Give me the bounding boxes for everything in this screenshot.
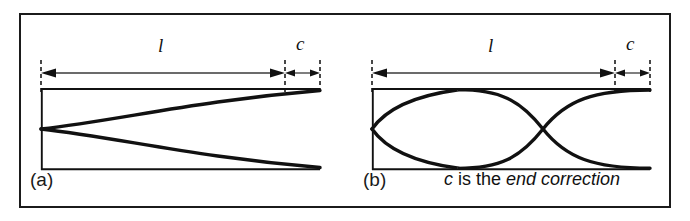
dimension-label-l-a: l bbox=[158, 36, 163, 55]
dimension-label-l-b: l bbox=[488, 36, 493, 55]
panel-label-a: (a) bbox=[30, 170, 53, 189]
dimension-label-c-a: c bbox=[296, 34, 304, 53]
caption-symbol-c: c bbox=[444, 169, 453, 189]
caption-term-end-correction: end correction bbox=[506, 169, 620, 189]
figure-container: l c (a) l c (b) c is the end correction bbox=[0, 0, 690, 221]
dimension-label-c-b: c bbox=[626, 34, 634, 53]
end-correction-caption: c is the end correction bbox=[444, 170, 620, 188]
caption-connector: is the bbox=[453, 169, 506, 189]
panel-label-b: (b) bbox=[363, 170, 386, 189]
